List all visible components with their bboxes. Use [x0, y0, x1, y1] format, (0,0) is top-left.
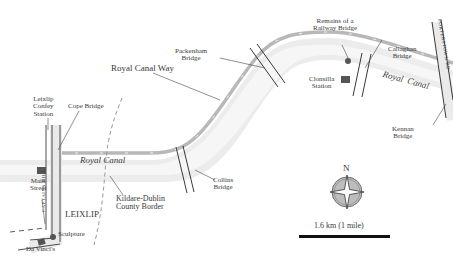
kb-2: Bridge: [392, 133, 414, 140]
collins-bridge-label: Collins Bridge: [213, 177, 233, 192]
clonsilla-station-label: Clonsilla Station: [309, 76, 334, 91]
canal-label-west: Royal Canal: [80, 156, 125, 165]
map-canvas: [0, 0, 453, 267]
compass-rose: [330, 175, 364, 209]
packenham-bridge-label: Packenham Bridge: [175, 48, 207, 63]
callaghan-bridge-label: Callaghan Bridge: [388, 46, 416, 61]
cope-bridge-label: Cope Bridge: [68, 103, 104, 110]
sculpture-marker: [50, 234, 56, 240]
cb-2: Bridge: [213, 184, 233, 191]
railway-remains-marker: [345, 58, 351, 64]
border-line-2: County Border: [116, 203, 165, 211]
lc-3: Station: [33, 111, 54, 118]
railway-remains-label: Remains of a Railway Bridge: [313, 18, 357, 33]
cg-2: Bridge: [388, 53, 416, 60]
sculpture-label: Sculpture: [58, 231, 85, 238]
scale-label: 1.6 km (1 mile): [314, 222, 364, 230]
kennan-bridge-label: Kennan Bridge: [392, 126, 414, 141]
leixlip-confey-label: Leixlip Confey Station: [33, 96, 54, 118]
border-label: Kildare-Dublin County Border: [116, 195, 165, 212]
canal-word-royal: Royal: [80, 155, 101, 165]
clonsilla-station-marker: [341, 76, 350, 83]
scale-bar: [299, 235, 390, 238]
compass-north-label: N: [343, 164, 350, 173]
canal-word-canal: Canal: [103, 155, 125, 165]
ms-2: Street: [30, 185, 46, 192]
town-label: LEIXLIP: [65, 210, 99, 219]
main-street-label: Main Street: [30, 178, 46, 193]
davincis-label: Da Vinci's: [26, 246, 55, 253]
pb-2: Bridge: [175, 55, 207, 62]
royal-canal-way-label: Royal Canal Way: [111, 64, 174, 73]
cs-2: Station: [309, 83, 334, 90]
rr-2: Railway Bridge: [313, 25, 357, 32]
